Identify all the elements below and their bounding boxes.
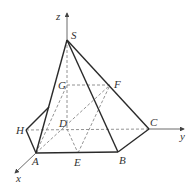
label-A: A [31,155,39,167]
edge-S-B [67,40,118,152]
diagram-canvas: z S G F H D C y A E B x [0,0,195,189]
edge-H-C-dashed [26,129,149,130]
edge-B-C [118,129,149,152]
label-H: H [15,124,25,136]
label-x: x [15,172,21,184]
pyramid-diagram: z S G F H D C y A E B x [0,0,195,189]
edge-A-B [36,152,118,153]
edge-S-A [36,40,67,153]
edge-S-C [67,40,149,129]
edge-A-H [26,130,36,153]
label-E: E [73,156,81,168]
edge-E-F-dashed [78,85,110,153]
label-B: B [119,154,126,166]
label-C: C [150,116,158,128]
label-z: z [55,10,61,22]
label-S: S [71,29,77,41]
label-D: D [58,117,67,129]
label-F: F [113,78,121,90]
label-y: y [179,130,185,142]
label-G: G [58,79,66,91]
edge-D-E-dashed [67,129,78,153]
